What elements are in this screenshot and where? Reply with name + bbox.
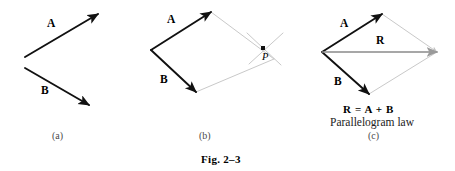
figure-2-3: A B (a) A B P (b) A B R R = A + B Parall… <box>0 0 455 171</box>
construction-lines-layer <box>196 12 437 94</box>
panel-c-vector-b-arrow <box>322 52 369 94</box>
figure-caption: Fig. 2–3 <box>201 154 241 165</box>
figure-vector-canvas <box>0 0 455 171</box>
vector-arrows-layer <box>25 12 437 105</box>
panel-b-edge-b-to-apex <box>196 59 274 92</box>
panel-c-edge-a-to-apex <box>382 14 437 52</box>
panel-c-equation: R = A + B <box>343 104 394 115</box>
marked-points-layer <box>261 46 265 50</box>
panel-c-vector-b-label: B <box>334 76 342 88</box>
panel-c-law-name: Parallelogram law <box>330 117 414 129</box>
panel-b-label: (b) <box>199 131 211 141</box>
panel-a-label: (a) <box>52 131 63 141</box>
panel-c-resultant-r-label: R <box>376 35 385 47</box>
panel-b-vector-a-label: A <box>167 14 176 26</box>
panel-c-vector-a-arrow <box>322 14 382 52</box>
panel-a-vector-a-label: A <box>47 18 56 30</box>
panel-a-vector-b-label: B <box>41 85 49 97</box>
panel-c-edge-b-to-apex <box>369 52 437 94</box>
panel-b-point-p-label: P <box>262 52 268 63</box>
panel-b-vector-b-arrow <box>151 50 196 92</box>
panel-c-label: (c) <box>368 131 379 141</box>
panel-a-vector-a-arrow <box>25 14 98 57</box>
panel-b-vector-a-arrow <box>151 12 211 50</box>
panel-b-vector-b-label: B <box>160 74 168 86</box>
panel-a-vector-b-arrow <box>25 68 89 105</box>
panel-c-vector-a-label: A <box>340 18 349 30</box>
panel-b-point-p-dot <box>261 46 265 50</box>
